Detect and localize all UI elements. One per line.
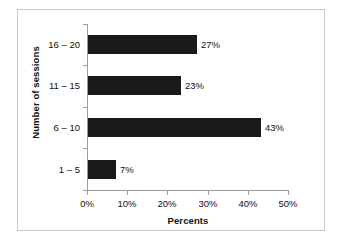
bar-value-label: 27% bbox=[201, 35, 220, 54]
bar bbox=[88, 35, 197, 54]
y-axis-tick bbox=[83, 148, 87, 149]
x-axis-tick bbox=[208, 191, 209, 195]
bar bbox=[88, 160, 116, 179]
y-axis-tick-label: 11 – 15 bbox=[20, 76, 80, 95]
x-axis-tick bbox=[248, 191, 249, 195]
bar bbox=[88, 76, 181, 95]
y-axis-tick-label: 6 – 10 bbox=[20, 118, 80, 137]
y-axis-tick-label: 1 – 5 bbox=[20, 160, 80, 179]
y-axis-tick bbox=[83, 107, 87, 108]
x-axis-tick-label: 30% bbox=[188, 198, 228, 209]
bar-value-label: 23% bbox=[185, 76, 204, 95]
x-axis-tick-label: 40% bbox=[228, 198, 268, 209]
x-axis-tick bbox=[127, 191, 128, 195]
plot-area: 16 – 20 27% 11 – 15 23% 6 – 10 43% 1 – 5… bbox=[87, 24, 289, 190]
y-axis-tick bbox=[83, 24, 87, 25]
x-axis-tick bbox=[288, 191, 289, 195]
bar bbox=[88, 118, 261, 137]
x-axis-title: Percents bbox=[87, 215, 289, 226]
x-axis-line bbox=[87, 190, 289, 191]
x-axis-tick bbox=[87, 191, 88, 195]
bar-value-label: 7% bbox=[120, 160, 134, 179]
x-axis-tick bbox=[167, 191, 168, 195]
x-axis-tick-label: 0% bbox=[67, 198, 107, 209]
chart-figure: Number of sessions 16 – 20 27% 11 – 15 2… bbox=[17, 9, 325, 231]
x-axis-tick-label: 50% bbox=[268, 198, 308, 209]
x-axis-tick-label: 20% bbox=[147, 198, 187, 209]
bar-value-label: 43% bbox=[265, 118, 284, 137]
x-axis-tick-label: 10% bbox=[107, 198, 147, 209]
y-axis-tick bbox=[83, 65, 87, 66]
y-axis-tick-label: 16 – 20 bbox=[20, 35, 80, 54]
